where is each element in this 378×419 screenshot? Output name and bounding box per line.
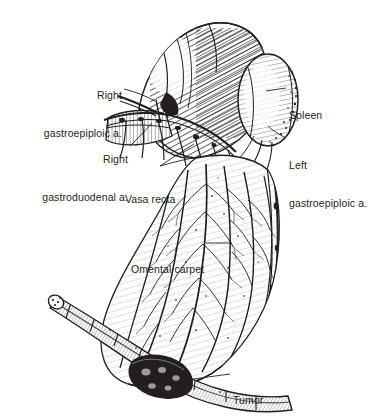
label-line-1: Tumor xyxy=(233,394,263,407)
label-line-1: Vasa recta xyxy=(125,193,175,206)
label-vasa-recta: Vasa recta xyxy=(125,168,175,218)
label-line-1: Left xyxy=(289,159,367,172)
label-line-2: gastroduodenal a. xyxy=(0,191,128,204)
label-line-1: Right xyxy=(0,89,122,102)
label-left-gastroepiploic-a: Left gastroepiploic a. xyxy=(289,134,367,222)
label-tumor: Tumor xyxy=(233,369,263,419)
label-line-1: Spleen xyxy=(289,109,322,122)
label-spleen: Spleen xyxy=(289,84,322,134)
label-right-gastroduodenal-a: Right gastroduodenal a. xyxy=(0,128,128,216)
label-line-2: gastroepiploic a. xyxy=(289,197,367,210)
label-omental-carpet: Omental carpet xyxy=(131,238,204,288)
label-line-1: Right xyxy=(0,153,128,166)
label-line-1: Omental carpet xyxy=(131,263,204,276)
